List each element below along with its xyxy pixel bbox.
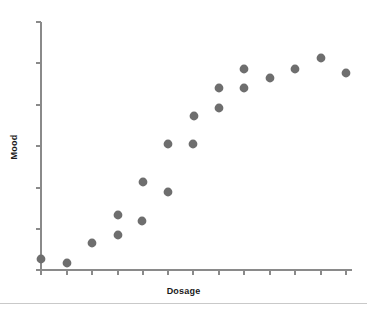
plot-canvas [0, 0, 367, 312]
data-point [240, 65, 249, 74]
data-point [215, 84, 224, 93]
scatter-points-group [37, 54, 351, 268]
data-point [215, 104, 224, 113]
data-point [342, 69, 351, 78]
y-axis-title: Mood [9, 117, 19, 177]
data-point [88, 239, 97, 248]
y-axis-group [36, 22, 41, 270]
data-point [63, 259, 72, 268]
x-axis-title: Dosage [0, 286, 367, 296]
data-point [266, 74, 275, 83]
data-point [189, 140, 198, 149]
data-point [138, 217, 147, 226]
data-point [139, 178, 148, 187]
y-axis-ticks [36, 22, 41, 270]
data-point [114, 231, 123, 240]
x-axis-group [41, 270, 352, 275]
x-axis-ticks [41, 270, 346, 275]
data-point [164, 140, 173, 149]
data-point [317, 54, 326, 63]
data-point [164, 188, 173, 197]
scatter-chart-figure: Dosage Mood [0, 0, 367, 312]
data-point [37, 255, 46, 264]
data-point [240, 84, 249, 93]
data-point [114, 211, 123, 220]
data-point [291, 65, 300, 74]
data-point [190, 112, 199, 121]
